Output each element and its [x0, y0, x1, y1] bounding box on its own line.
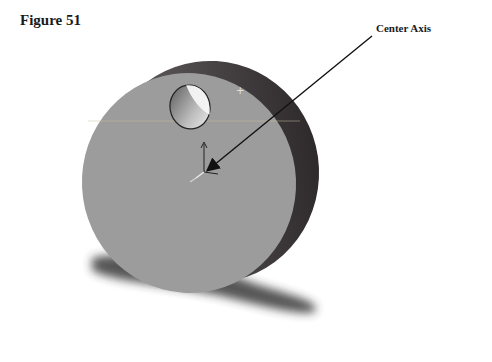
cad-model-view: +	[0, 0, 492, 362]
sketch-point-marker: +	[236, 85, 244, 96]
